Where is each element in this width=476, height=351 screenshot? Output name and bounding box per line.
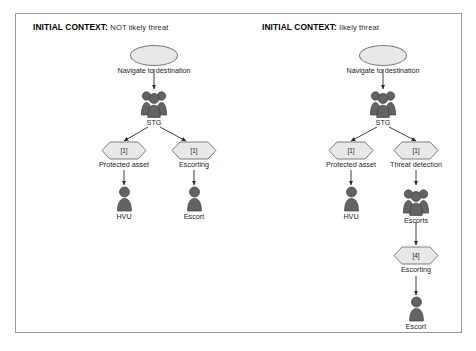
initial-context-label-right: INITIAL CONTEXT: <box>262 22 337 32</box>
node-stg-left[interactable]: STG <box>94 88 214 127</box>
node-label: STG <box>323 119 443 127</box>
node-label: Escorting <box>356 266 476 274</box>
node-start-left[interactable]: Navigate to destination <box>94 45 214 75</box>
ellipse-shape-icon <box>130 45 178 66</box>
person-icon <box>134 186 254 212</box>
hexagon-shape-icon: [1] <box>393 141 439 160</box>
node-label: Escort <box>356 323 476 331</box>
node-escorting-right[interactable]: [4] Escorting <box>356 246 476 274</box>
node-escorts-right[interactable]: Escorts <box>356 186 476 225</box>
ellipse-shape-icon <box>359 45 407 66</box>
node-escort-right[interactable]: Escort <box>356 296 476 331</box>
diagram-canvas: INITIAL CONTEXT: NOT likely threat INITI… <box>0 0 476 351</box>
initial-context-value-right: likely threat <box>339 23 379 32</box>
node-label: STG <box>94 119 214 127</box>
hexagon-count-label: [4] <box>393 246 439 265</box>
node-stg-right[interactable]: STG <box>323 88 443 127</box>
initial-context-header-left: INITIAL CONTEXT: NOT likely threat <box>33 22 168 32</box>
group-people-icon <box>94 88 214 118</box>
hexagon-count-label: [1] <box>171 141 217 160</box>
hexagon-shape-icon: [4] <box>393 246 439 265</box>
node-label: Navigate to destination <box>323 67 443 75</box>
hexagon-shape-icon: [1] <box>171 141 217 160</box>
node-label: Escort <box>134 213 254 221</box>
group-people-icon <box>323 88 443 118</box>
group-people-icon <box>356 186 476 216</box>
node-label: Threat detection <box>356 161 476 169</box>
node-label: Escorts <box>356 217 476 225</box>
initial-context-header-right: INITIAL CONTEXT: likely threat <box>262 22 379 32</box>
initial-context-label-left: INITIAL CONTEXT: <box>33 22 108 32</box>
hexagon-count-label: [1] <box>393 141 439 160</box>
node-start-right[interactable]: Navigate to destination <box>323 45 443 75</box>
node-label: Escorting <box>134 161 254 169</box>
node-threat-detection-right[interactable]: [1] Threat detection <box>356 141 476 169</box>
person-icon <box>356 296 476 322</box>
node-escorting-left[interactable]: [1] Escorting <box>134 141 254 169</box>
node-escort-left[interactable]: Escort <box>134 186 254 221</box>
initial-context-value-left: NOT likely threat <box>110 23 168 32</box>
node-label: Navigate to destination <box>94 67 214 75</box>
